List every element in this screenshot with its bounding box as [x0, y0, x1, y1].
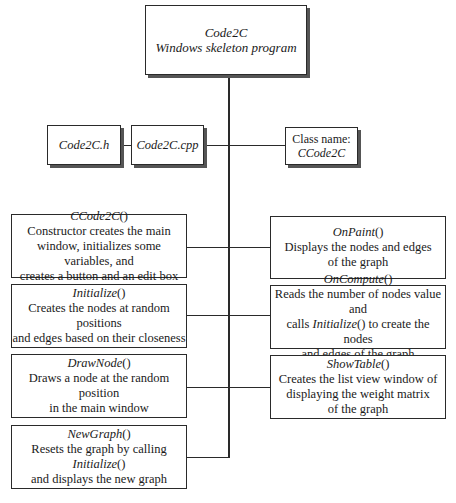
- file-link-line: [121, 145, 131, 146]
- function-name: ShowTable(): [327, 357, 390, 372]
- function-desc-line: Displays the nodes and edges: [284, 240, 431, 255]
- function-desc-line: Draws a node at the random position: [12, 371, 186, 401]
- function-desc-line: window, initializes some variables, and: [12, 239, 186, 269]
- files-to-class-line: [204, 145, 285, 146]
- function-box-newgraph: NewGraph() Resets the graph by calling I…: [11, 425, 187, 489]
- function-box-ccode2c: CCode2C() Constructor creates the main w…: [11, 214, 187, 278]
- function-desc-line: in the main window: [49, 401, 149, 416]
- class-label: Class name:: [292, 132, 350, 146]
- function-box-drawnode: DrawNode() Draws a node at the random po…: [11, 354, 187, 418]
- connector-row-2: [187, 315, 270, 316]
- function-name: OnCompute(): [324, 272, 393, 287]
- class-name-box: Class name: CCode2C: [285, 127, 358, 165]
- root-subtitle: Windows skeleton program: [155, 40, 296, 55]
- function-desc-line: calls Initialize() to create the nodes: [271, 317, 445, 347]
- file-box-source: Code2C.cpp: [131, 125, 204, 165]
- connector-row-4: [187, 457, 230, 458]
- function-box-initialize: Initialize() Creates the nodes at random…: [11, 284, 187, 348]
- root-program-box: Code2C Windows skeleton program: [145, 5, 307, 75]
- function-desc-line: of the graph: [328, 402, 388, 417]
- function-desc-line: Creates the nodes at random positions: [12, 301, 186, 331]
- root-title: Code2C: [205, 25, 248, 40]
- function-desc-line: creates a button and an edit box: [20, 269, 178, 284]
- function-box-showtable: ShowTable() Creates the list view window…: [270, 355, 446, 419]
- function-desc-line: displaying the weight matrix: [286, 387, 429, 402]
- function-desc-line: Reads the number of nodes value and: [271, 287, 445, 317]
- function-desc-line: of the graph: [328, 255, 388, 270]
- function-box-oncompute: OnCompute() Reads the number of nodes va…: [270, 285, 446, 349]
- function-name: OnPaint(): [333, 225, 384, 240]
- function-box-onpaint: OnPaint() Displays the nodes and edges o…: [270, 216, 446, 279]
- connector-row-3: [187, 387, 270, 388]
- function-desc-line: and edges based on their closeness: [12, 331, 185, 346]
- class-name: CCode2C: [298, 146, 345, 160]
- function-name: CCode2C(): [70, 209, 128, 224]
- connector-row-1: [187, 247, 270, 248]
- file-name: Code2C.cpp: [136, 138, 198, 153]
- function-desc-line: Constructor creates the main: [27, 224, 170, 239]
- function-desc-line: Resets the graph by calling Initialize(): [12, 442, 186, 472]
- function-name: DrawNode(): [67, 356, 130, 371]
- function-desc-line: Creates the list view window of: [279, 372, 438, 387]
- file-name: Code2C.h: [59, 138, 109, 153]
- function-desc-line: and displays the new graph: [31, 472, 167, 487]
- file-box-header: Code2C.h: [47, 125, 121, 165]
- trunk-line: [228, 75, 230, 458]
- function-name: Initialize(): [73, 286, 126, 301]
- function-name: NewGraph(): [67, 427, 130, 442]
